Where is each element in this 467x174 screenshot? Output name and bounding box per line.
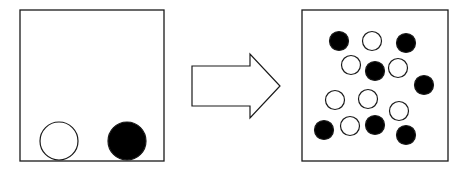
white-particle — [389, 59, 408, 78]
white-particle — [40, 122, 78, 160]
black-particle — [366, 116, 385, 135]
black-particle — [330, 32, 349, 51]
black-particle — [415, 76, 434, 95]
black-particle — [108, 122, 146, 160]
black-particle — [366, 62, 385, 81]
black-particle — [397, 126, 416, 145]
white-particle — [342, 56, 361, 75]
white-particle — [326, 91, 345, 110]
black-particle — [315, 121, 334, 140]
white-particle — [363, 32, 382, 51]
black-particle — [397, 34, 416, 53]
right-arrow-icon — [192, 54, 280, 118]
white-particle — [390, 102, 409, 121]
white-particle — [341, 117, 360, 136]
particle-diagram — [0, 0, 467, 174]
white-particle — [359, 90, 378, 109]
